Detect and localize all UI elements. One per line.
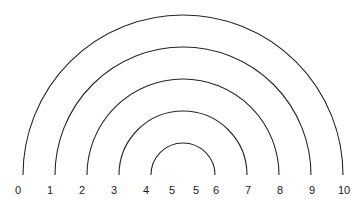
semicircle-arc-1 — [23, 15, 343, 175]
semicircle-arc-5 — [151, 143, 215, 175]
semicircle-arc-3 — [87, 79, 279, 175]
arc-canvas — [0, 0, 358, 205]
arc-group — [23, 15, 343, 175]
nested-semicircles-figure: 0123455678910 — [0, 0, 358, 205]
